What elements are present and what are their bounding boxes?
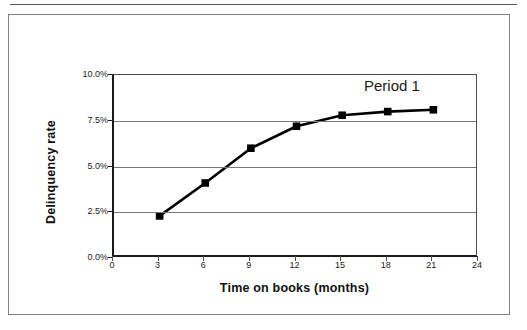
x-axis-tick-label: 21 xyxy=(426,261,436,270)
x-axis-tick-label: 18 xyxy=(381,261,391,270)
x-axis-tick-label: 0 xyxy=(109,261,114,270)
x-axis-tick-label: 9 xyxy=(246,261,251,270)
y-axis-tick-label: 10.0% xyxy=(64,70,108,79)
x-axis-tick-mark xyxy=(340,256,341,261)
series-annotation-label: Period 1 xyxy=(364,77,420,94)
chart-figure-frame: Delinquency rate 0.0%2.5%5.0%7.5%10.0% 0… xyxy=(8,14,510,315)
data-point-marker xyxy=(156,212,164,220)
data-point-marker xyxy=(293,122,301,130)
x-axis-tick-mark xyxy=(295,256,296,261)
data-point-marker xyxy=(201,179,209,187)
data-point-marker xyxy=(430,106,438,114)
y-axis-title: Delinquency rate xyxy=(44,92,58,252)
x-axis-tick-mark xyxy=(431,256,432,261)
x-axis-tick-mark xyxy=(158,256,159,261)
x-axis-tick-mark xyxy=(249,256,250,261)
x-axis-tick-label: 12 xyxy=(289,261,299,270)
gridline-horizontal xyxy=(114,212,476,213)
x-axis-tick-mark xyxy=(112,256,113,261)
x-axis-tick-labels: 03691215182124 xyxy=(112,261,477,281)
x-axis-tick-mark xyxy=(386,256,387,261)
x-axis-tick-mark xyxy=(477,256,478,261)
series-markers xyxy=(156,106,437,220)
y-axis-tick-label: 2.5% xyxy=(64,207,108,216)
page-separator-rule xyxy=(10,4,517,5)
x-axis-title: Time on books (months) xyxy=(112,281,477,295)
y-axis-tick-label: 5.0% xyxy=(64,161,108,170)
y-axis-tick-labels: 0.0%2.5%5.0%7.5%10.0% xyxy=(62,74,108,257)
y-axis-tick-label: 7.5% xyxy=(64,115,108,124)
x-axis-tick-label: 3 xyxy=(155,261,160,270)
x-axis-tick-mark xyxy=(203,256,204,261)
data-point-marker xyxy=(247,144,255,152)
x-axis-tick-label: 24 xyxy=(472,261,482,270)
y-axis-tick-label: 0.0% xyxy=(64,253,108,262)
gridline-horizontal xyxy=(114,167,476,168)
data-point-marker xyxy=(384,108,392,116)
plot-area xyxy=(112,74,477,257)
data-point-marker xyxy=(338,111,346,119)
x-axis-tick-label: 15 xyxy=(335,261,345,270)
gridline-horizontal xyxy=(114,121,476,122)
x-axis-tick-label: 6 xyxy=(201,261,206,270)
